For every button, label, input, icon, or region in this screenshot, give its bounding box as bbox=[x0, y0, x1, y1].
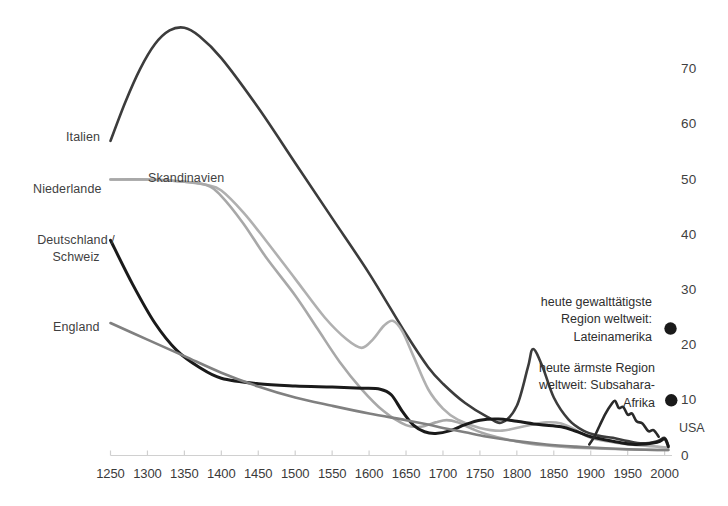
x-tick-label-1300: 1300 bbox=[133, 466, 162, 481]
x-tick-label-2000: 2000 bbox=[650, 466, 679, 481]
marker-dot-subsahara bbox=[665, 394, 677, 406]
x-tick-label-1700: 1700 bbox=[429, 466, 458, 481]
y-tick-label-70: 70 bbox=[681, 61, 696, 76]
x-tick-label-1250: 1250 bbox=[96, 466, 125, 481]
series-label-deutschland-schweiz: Deutschland / Schweiz bbox=[30, 232, 122, 266]
annotation-subsahara-line3: Afrika bbox=[539, 395, 655, 412]
x-tick-label-1550: 1550 bbox=[318, 466, 347, 481]
series-label-italien: Italien bbox=[66, 130, 100, 144]
y-tick-label-10: 10 bbox=[681, 392, 696, 407]
x-tick-label-1600: 1600 bbox=[355, 466, 384, 481]
x-tick-label-1350: 1350 bbox=[170, 466, 199, 481]
x-tick-label-1900: 1900 bbox=[576, 466, 605, 481]
y-tick-label-40: 40 bbox=[681, 227, 696, 242]
x-tick-label-1450: 1450 bbox=[244, 466, 273, 481]
y-tick-label-0: 0 bbox=[681, 448, 689, 463]
y-tick-label-30: 30 bbox=[681, 282, 696, 297]
x-axis bbox=[111, 451, 673, 456]
x-tick-label-1750: 1750 bbox=[466, 466, 495, 481]
series-label-usa: USA bbox=[679, 421, 705, 435]
chart-container: 010203040506070 125013001350140014501500… bbox=[0, 0, 728, 506]
annotation-lateinamerika: heute gewalttätigste Region weltweit: La… bbox=[541, 294, 652, 346]
annotation-subsahara: heute ärmste Region weltweit: Subsahara-… bbox=[539, 360, 655, 412]
annotation-subsahara-line1: heute ärmste Region bbox=[539, 360, 655, 377]
annotation-lateinamerika-line2: Region weltweit: bbox=[541, 311, 652, 328]
series-label-niederlande: Niederlande bbox=[33, 182, 102, 196]
x-tick-label-1400: 1400 bbox=[207, 466, 236, 481]
series-label-deutschland-line1: Deutschland / bbox=[30, 232, 122, 249]
x-tick-label-1800: 1800 bbox=[503, 466, 532, 481]
annotation-markers bbox=[664, 322, 677, 406]
series-label-deutschland-line2: Schweiz bbox=[30, 249, 122, 266]
x-tick-label-1650: 1650 bbox=[392, 466, 421, 481]
annotation-subsahara-line2: weltweit: Subsahara- bbox=[539, 377, 655, 394]
y-tick-label-20: 20 bbox=[681, 337, 696, 352]
marker-dot-lateinamerika bbox=[664, 322, 676, 334]
x-tick-label-1850: 1850 bbox=[540, 466, 569, 481]
y-tick-label-60: 60 bbox=[681, 116, 696, 131]
x-tick-label-1950: 1950 bbox=[613, 466, 642, 481]
y-tick-label-50: 50 bbox=[681, 172, 696, 187]
annotation-lateinamerika-line1: heute gewalttätigste bbox=[541, 294, 652, 311]
series-label-skandinavien: Skandinavien bbox=[148, 171, 224, 185]
series-label-england: England bbox=[53, 320, 100, 334]
x-tick-label-1500: 1500 bbox=[281, 466, 310, 481]
annotation-lateinamerika-line3: Lateinamerika bbox=[541, 329, 652, 346]
